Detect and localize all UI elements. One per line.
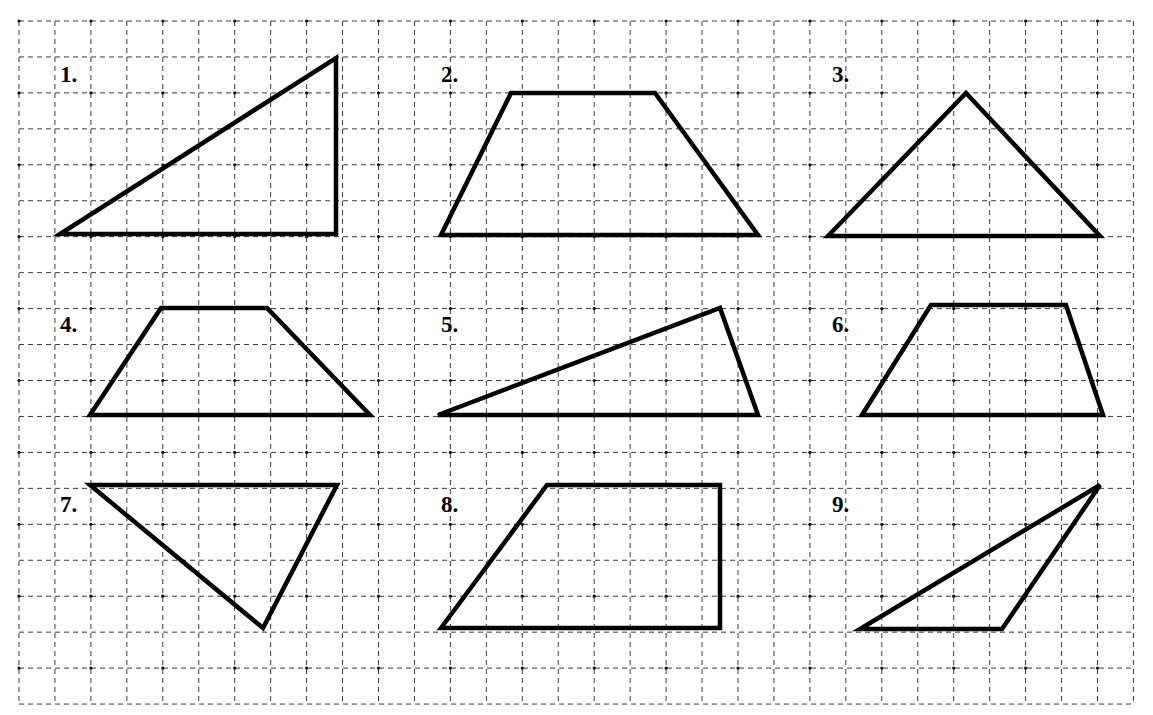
shape-acute-triangle [828, 93, 1100, 236]
worksheet-canvas: 1.2.3.4.5.6.7.8.9. [0, 0, 1153, 715]
shape-right-trapezoid [441, 485, 720, 628]
shape-trapezoid-short [862, 305, 1103, 415]
shape-trapezoid-wide-base [90, 308, 370, 415]
shape-obtuse-scalene-triangle [438, 308, 758, 415]
shapes-group [0, 0, 1153, 715]
shape-thin-scalene-triangle [860, 485, 1100, 629]
shape-isosceles-trapezoid [441, 93, 758, 235]
shape-inverted-triangle [90, 485, 337, 628]
shape-right-triangle [60, 58, 336, 234]
